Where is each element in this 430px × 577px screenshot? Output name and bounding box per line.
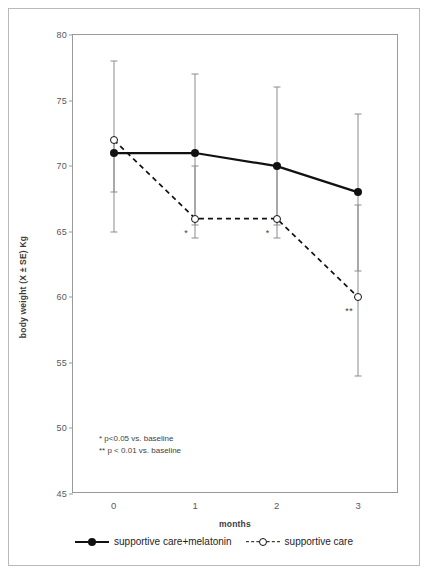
note-line-2: ** p < 0.01 vs. baseline: [99, 445, 181, 457]
note-line-1: * p<0.05 vs. baseline: [99, 433, 181, 445]
significance-note: * p<0.05 vs. baseline ** p < 0.01 vs. ba…: [99, 433, 181, 456]
x-tick-label-3: 3: [356, 500, 361, 511]
data-point-s0-x0: [110, 149, 118, 157]
x-tick-label-1: 1: [193, 500, 198, 511]
legend-item-supportive-care[interactable]: supportive care: [246, 536, 353, 547]
data-point-s1-x1: [191, 215, 199, 223]
figure-panel: body weight (X ± SE) Kg 4550556065707580…: [8, 8, 420, 566]
data-point-s1-x2: [273, 215, 281, 223]
series-line-1: [114, 140, 359, 297]
legend-label-1: supportive care: [285, 536, 353, 547]
x-tick-label-2: 2: [274, 500, 279, 511]
y-axis-label: body weight (X ± SE) Kg: [18, 236, 28, 338]
legend-item-supportive-care-melatonin[interactable]: supportive care+melatonin: [75, 536, 232, 547]
plot-area: 4550556065707580 0123 **** * p<0.05 vs. …: [72, 34, 398, 493]
data-point-s0-x1: [191, 149, 199, 157]
solid-line-filled-circle-icon: [75, 537, 109, 546]
data-point-s0-x2: [273, 162, 281, 170]
series-lines-layer: [73, 35, 399, 494]
data-point-s0-x3: [354, 188, 362, 196]
x-axis-label: months: [72, 519, 398, 529]
data-point-s1-x3: [354, 293, 362, 301]
significance-marker-x3: **: [345, 306, 353, 316]
chart-legend: supportive care+melatonin supportive car…: [9, 536, 419, 547]
significance-marker-x2: *: [266, 228, 270, 238]
significance-marker-x1: *: [184, 228, 188, 238]
legend-label-0: supportive care+melatonin: [114, 536, 232, 547]
series-line-0: [114, 153, 359, 192]
data-point-s1-x0: [110, 136, 118, 144]
dashed-line-open-circle-icon: [246, 537, 280, 546]
x-tick-label-0: 0: [111, 500, 116, 511]
